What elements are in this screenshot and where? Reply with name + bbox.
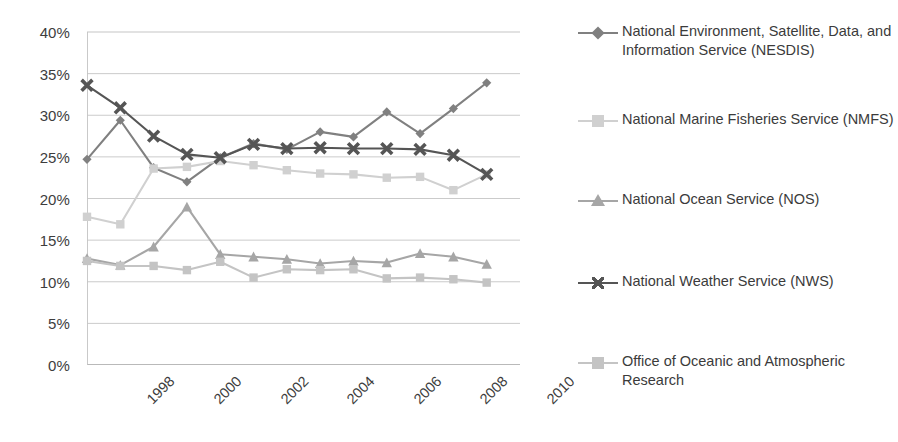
legend-item-nos[interactable]: National Ocean Service (NOS) xyxy=(578,190,898,209)
legend-label: National Marine Fisheries Service (NMFS) xyxy=(622,110,894,129)
chart-legend: National Environment, Satellite, Data, a… xyxy=(578,0,898,442)
chart-screenshot: 0%5%10%15%20%25%30%35%40% 19982000200220… xyxy=(0,0,898,442)
x-tick-label: 2002 xyxy=(277,373,311,407)
legend-marker-triangle-icon xyxy=(578,192,618,209)
x-tick-label: 2008 xyxy=(477,373,511,407)
legend-marker-diamond-icon xyxy=(578,24,618,41)
legend-symbol xyxy=(592,357,604,369)
legend-label: National Weather Service (NWS) xyxy=(622,272,834,291)
legend-symbol xyxy=(592,115,604,127)
x-tick-label: 2000 xyxy=(210,373,244,407)
legend-item-oar[interactable]: Office of Oceanic and Atmospheric Resear… xyxy=(578,352,898,391)
x-axis: 1998200020022004200620082010 xyxy=(0,0,575,442)
x-tick-label: 1998 xyxy=(144,373,178,407)
legend-symbol xyxy=(591,194,605,206)
legend-marker-square-icon xyxy=(578,354,618,371)
legend-label: National Environment, Satellite, Data, a… xyxy=(622,22,898,61)
legend-marker-x-icon xyxy=(578,274,618,291)
x-tick-label: 2004 xyxy=(344,373,378,407)
legend-marker-square-icon xyxy=(578,112,618,129)
x-tick-label: 2006 xyxy=(410,373,444,407)
legend-item-nws[interactable]: National Weather Service (NWS) xyxy=(578,272,898,291)
legend-item-nesdis[interactable]: National Environment, Satellite, Data, a… xyxy=(578,22,898,61)
legend-symbol xyxy=(592,277,604,289)
legend-label: Office of Oceanic and Atmospheric Resear… xyxy=(622,352,898,391)
legend-label: National Ocean Service (NOS) xyxy=(622,190,819,209)
legend-item-nmfs[interactable]: National Marine Fisheries Service (NMFS) xyxy=(578,110,898,129)
legend-symbol xyxy=(591,26,604,39)
x-tick-label: 2010 xyxy=(543,373,577,407)
line-chart: 0%5%10%15%20%25%30%35%40% 19982000200220… xyxy=(0,0,575,442)
